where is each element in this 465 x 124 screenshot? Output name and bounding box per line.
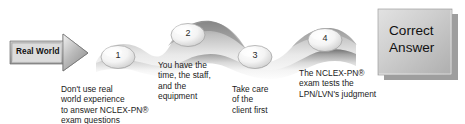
step-caption-4: The NCLEX-PN® exam tests the LPN/LVN's j… (299, 68, 376, 99)
step-caption-2: You have the time, the staff, and the eq… (158, 60, 211, 101)
step-caption-1: Don't use real world experience to answe… (61, 84, 149, 124)
step-number-4: 4 (318, 33, 332, 43)
step-number-2: 2 (181, 28, 195, 38)
correct-answer-label: Correct Answer (389, 23, 434, 56)
step-number-1: 1 (111, 50, 125, 60)
step-number-3: 3 (248, 50, 262, 60)
nclex-strategy-figure: Real World 1 2 3 4 Don't use real world … (0, 0, 465, 124)
step-caption-3: Take care of the client first (232, 84, 269, 115)
real-world-label: Real World (16, 47, 60, 56)
